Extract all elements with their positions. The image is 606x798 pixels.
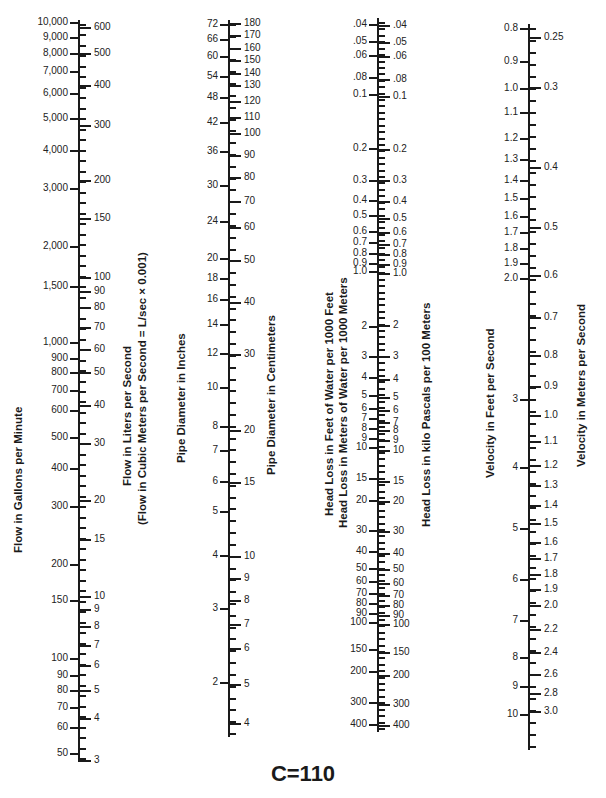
minor-tick: [378, 491, 385, 493]
tick-label-left: 600: [51, 405, 68, 415]
major-tick-left: [520, 28, 530, 30]
minor-tick: [79, 559, 86, 561]
major-tick-left: [220, 426, 230, 428]
minor-tick: [79, 45, 86, 47]
minor-tick: [79, 401, 86, 403]
major-tick-right: [79, 405, 91, 407]
minor-tick: [378, 86, 385, 88]
minor-tick: [378, 112, 385, 114]
major-tick-left: [220, 221, 230, 223]
minor-tick: [529, 555, 536, 557]
minor-tick: [529, 399, 536, 401]
minor-tick: [529, 279, 536, 281]
minor-tick: [79, 360, 86, 362]
tick-label-right: 0.6: [393, 227, 407, 237]
tick-label-left: 5: [512, 523, 518, 533]
major-tick-left: [70, 564, 80, 566]
major-tick-right: [529, 674, 541, 676]
major-tick-right: [378, 356, 390, 358]
major-tick-left: [520, 198, 530, 200]
major-tick-left: [70, 246, 80, 248]
minor-tick: [378, 285, 385, 287]
major-tick-left: [70, 707, 80, 709]
minor-tick: [229, 698, 236, 700]
major-tick-right: [529, 167, 541, 169]
minor-tick: [378, 664, 385, 666]
tick-label-right: 7: [244, 619, 250, 629]
tick-label-left: 72: [207, 19, 218, 29]
tick-label-left: 150: [350, 644, 367, 654]
minor-tick: [79, 244, 86, 246]
tick-label-right: 0.3: [393, 175, 407, 185]
major-tick-right: [79, 645, 91, 647]
tick-label-left: 100: [350, 617, 367, 627]
minor-tick: [229, 119, 236, 121]
minor-tick: [229, 319, 236, 321]
minor-tick: [378, 465, 385, 467]
minor-tick: [529, 602, 536, 604]
minor-tick: [378, 728, 385, 730]
tick-label-left: 0.3: [353, 175, 367, 185]
tick-label-right: 6: [244, 643, 250, 653]
minor-tick: [529, 423, 536, 425]
major-tick-left: [70, 468, 80, 470]
minor-tick: [378, 99, 385, 101]
major-tick-left: [220, 97, 230, 99]
minor-tick: [378, 317, 385, 319]
tick-label-left: 300: [350, 697, 367, 707]
tick-label-left: 1,500: [43, 281, 68, 291]
tick-label-left: 10,000: [37, 17, 68, 27]
minor-tick: [79, 255, 86, 257]
minor-tick: [378, 458, 385, 460]
tick-label-left: 10: [507, 709, 518, 719]
minor-tick: [79, 548, 86, 550]
minor-tick: [229, 591, 236, 593]
minor-tick: [529, 734, 536, 736]
minor-tick: [378, 227, 385, 229]
tick-label-right: 0.5: [544, 222, 558, 232]
minor-tick: [378, 381, 385, 383]
tick-label-right: 1.7: [544, 553, 558, 563]
major-tick-right: [79, 690, 91, 692]
tick-label-left: .04: [353, 19, 367, 29]
major-tick-right: [79, 500, 91, 502]
minor-tick: [529, 662, 536, 664]
minor-tick: [378, 645, 385, 647]
major-tick-right: [229, 684, 241, 686]
major-tick-right: [229, 133, 241, 135]
minor-tick: [529, 567, 536, 569]
tick-label-right: 1.0: [393, 268, 407, 278]
minor-tick: [378, 369, 385, 371]
major-tick-right: [378, 440, 390, 442]
major-tick-right: [79, 291, 91, 293]
tick-label-left: 0.6: [353, 226, 367, 236]
major-tick-right: [529, 605, 541, 607]
flow-cms-title: (Flow in Cubic Meters per Second = L/sec…: [136, 252, 148, 525]
head-loss-m-title: Head Loss in Meters of Water per 1000 Me…: [337, 277, 349, 528]
major-tick-right: [79, 125, 91, 127]
tick-label-left: 80: [57, 685, 68, 695]
major-tick-left: [520, 216, 530, 218]
tick-label-right: 30: [244, 349, 255, 359]
minor-tick: [229, 142, 236, 144]
tick-label-left: 400: [51, 463, 68, 473]
major-tick-left: [520, 232, 530, 234]
minor-tick: [79, 464, 86, 466]
tick-label-right: 50: [94, 367, 105, 377]
tick-label-right: 15: [393, 476, 404, 486]
major-tick-left: [520, 528, 530, 530]
minor-tick: [378, 125, 385, 127]
minor-tick: [79, 150, 86, 152]
major-tick-right: [79, 307, 91, 309]
minor-tick: [229, 331, 236, 333]
tick-label-right: 300: [393, 699, 410, 709]
tick-label-right: 3.0: [544, 706, 558, 716]
minor-tick: [378, 414, 385, 416]
minor-tick: [378, 48, 385, 50]
tick-label-left: 1.9: [504, 258, 518, 268]
minor-tick: [378, 176, 385, 178]
tick-label-right: .06: [393, 51, 407, 61]
tick-label-right: .05: [393, 37, 407, 47]
minor-tick: [229, 544, 236, 546]
minor-tick: [529, 447, 536, 449]
